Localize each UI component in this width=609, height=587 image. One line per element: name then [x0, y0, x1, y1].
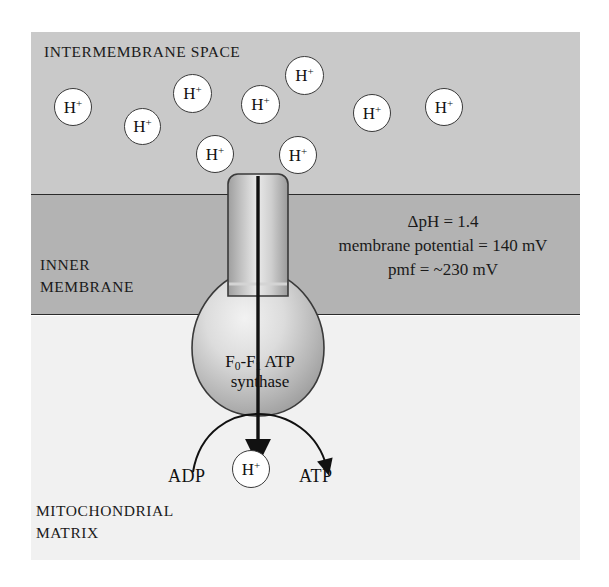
membrane-potential-annotation: membrane potential = 140 mV: [312, 234, 574, 258]
proton-h-glyph: H: [363, 105, 375, 122]
synthase-name-line1: F0-F1 ATP: [225, 352, 295, 371]
proton-h-glyph: H: [295, 67, 307, 84]
adp-label: ADP: [168, 466, 206, 487]
proton-plus-glyph: +: [447, 98, 453, 109]
proton-bubble: H+: [285, 56, 324, 95]
proton-bubble: H+: [279, 136, 317, 174]
proton-h-glyph: H: [289, 147, 301, 164]
proton-bubble: H+: [54, 88, 92, 126]
proton-bubble: H+: [425, 88, 463, 126]
synthase-name-line2: synthase: [231, 372, 290, 391]
proton-plus-glyph: +: [76, 98, 82, 109]
cropped-top-text: [0, 0, 609, 7]
inner-membrane-label: INNER MEMBRANE: [40, 254, 134, 299]
intermembrane-space-label: INTERMEMBRANE SPACE: [44, 41, 240, 63]
proton-bubble: H+: [353, 94, 391, 132]
proton-h-glyph: H: [206, 146, 218, 163]
proton-plus-glyph: +: [254, 460, 260, 471]
proton-bubble: H+: [124, 108, 161, 145]
proton-h-glyph: H: [251, 96, 263, 113]
proton-bubble: H+: [173, 74, 212, 113]
product-proton-bubble: H+: [232, 450, 270, 488]
proton-h-glyph: H: [183, 85, 195, 102]
chemiosmosis-diagram: INTERMEMBRANE SPACE INNER MEMBRANE MITOC…: [0, 0, 609, 587]
proton-bubble: H+: [196, 135, 234, 173]
inner-membrane-label-line2: MEMBRANE: [40, 278, 134, 295]
proton-plus-glyph: +: [146, 117, 152, 128]
proton-plus-glyph: +: [308, 66, 314, 77]
atp-synthase-label: F0-F1 ATP synthase: [186, 352, 334, 393]
proton-plus-glyph: +: [264, 95, 270, 106]
proton-h-glyph: H: [242, 461, 254, 478]
proton-plus-glyph: +: [218, 145, 224, 156]
delta-ph-annotation: ΔpH = 1.4: [312, 210, 574, 234]
proton-h-glyph: H: [435, 99, 447, 116]
proton-h-glyph: H: [64, 99, 76, 116]
atp-label: ATP: [299, 466, 333, 487]
matrix-label-line1: MITOCHONDRIAL: [36, 502, 174, 519]
proton-h-glyph: H: [133, 118, 145, 135]
proton-plus-glyph: +: [196, 84, 202, 95]
inner-membrane-label-line1: INNER: [40, 256, 90, 273]
matrix-label-line2: MATRIX: [36, 524, 99, 541]
mitochondrial-matrix-label: MITOCHONDRIAL MATRIX: [36, 500, 174, 545]
proton-plus-glyph: +: [301, 146, 307, 157]
f0-stalk-shape: [228, 174, 288, 296]
pmf-annotation-block: ΔpH = 1.4 membrane potential = 140 mV pm…: [312, 210, 574, 282]
proton-bubble: H+: [241, 85, 280, 124]
proton-plus-glyph: +: [375, 104, 381, 115]
pmf-annotation: pmf = ~230 mV: [312, 258, 574, 282]
